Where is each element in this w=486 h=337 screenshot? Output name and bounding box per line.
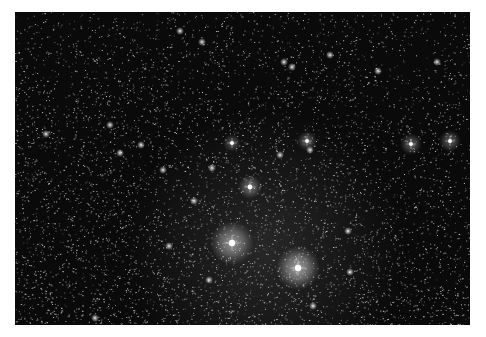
star-field-photo: [15, 12, 470, 325]
star-field-canvas: [15, 12, 470, 325]
